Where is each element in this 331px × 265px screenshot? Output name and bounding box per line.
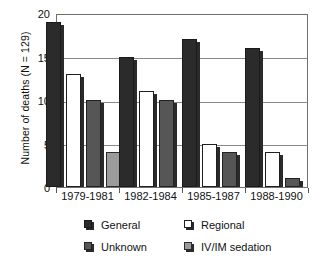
bar bbox=[222, 152, 240, 187]
bar-body bbox=[66, 74, 81, 187]
bar-shadow bbox=[154, 94, 157, 187]
legend-swatch-body bbox=[84, 242, 92, 250]
legend-swatch-icon bbox=[84, 220, 94, 230]
legend-label: Unknown bbox=[101, 241, 147, 253]
y-axis-title: Number of deaths (N = 129) bbox=[19, 13, 31, 183]
x-axis-tick-label: 1982-1984 bbox=[124, 190, 177, 202]
legend-item: Unknown bbox=[84, 241, 184, 253]
legend-item: Regional bbox=[184, 219, 314, 231]
bar-body bbox=[119, 57, 134, 188]
legend-label: IV/IM sedation bbox=[201, 241, 271, 253]
bar bbox=[139, 91, 157, 187]
bar bbox=[159, 100, 177, 187]
legend-swatch-icon bbox=[184, 220, 194, 230]
bar-shadow bbox=[237, 155, 240, 187]
bar-shadow bbox=[101, 103, 104, 187]
legend-swatch-icon bbox=[84, 242, 94, 252]
legend-item: General bbox=[84, 219, 184, 231]
bar-body bbox=[46, 22, 61, 187]
legend-swatch-icon bbox=[184, 242, 194, 252]
bar bbox=[86, 100, 104, 187]
legend-swatch-body bbox=[84, 220, 92, 228]
bar-body bbox=[285, 178, 300, 187]
bar-shadow bbox=[134, 60, 137, 188]
chart-legend: GeneralRegionalUnknownIV/IM sedation bbox=[84, 214, 314, 258]
bar-shadow bbox=[81, 77, 84, 187]
bar-body bbox=[222, 152, 237, 187]
bar-chart-figure: Number of deaths (N = 129) 05101520 1979… bbox=[0, 0, 331, 265]
bar bbox=[285, 178, 303, 187]
bar-body bbox=[86, 100, 101, 187]
bar bbox=[245, 48, 263, 187]
bar-shadow bbox=[61, 25, 64, 187]
x-axis-tick-mark bbox=[119, 188, 120, 193]
bar bbox=[46, 22, 64, 187]
bar-shadow bbox=[300, 181, 303, 187]
bar-shadow bbox=[217, 147, 220, 188]
legend-swatch-shadow bbox=[86, 250, 94, 252]
legend-swatch-shadow bbox=[186, 228, 194, 230]
legend-swatch-shadow bbox=[186, 250, 194, 252]
bar-shadow bbox=[174, 103, 177, 187]
bar bbox=[66, 74, 84, 187]
bar bbox=[182, 39, 200, 187]
x-axis-tick-mark bbox=[182, 188, 183, 193]
bar-series-layer bbox=[57, 15, 307, 187]
x-axis-tick-labels: 1979-19811982-19841985-19871988-1990 bbox=[56, 190, 308, 206]
bar-body bbox=[245, 48, 260, 187]
bar-body bbox=[159, 100, 174, 187]
bar-shadow bbox=[260, 51, 263, 187]
x-axis-tick-mark bbox=[308, 188, 309, 193]
legend-label: General bbox=[101, 219, 140, 231]
legend-swatch-body bbox=[184, 242, 192, 250]
bar-body bbox=[182, 39, 197, 187]
bar-shadow bbox=[280, 155, 283, 187]
x-axis-tick-label: 1985-1987 bbox=[187, 190, 240, 202]
bar bbox=[119, 57, 137, 188]
bar-body bbox=[139, 91, 154, 187]
x-axis-tick-mark bbox=[56, 188, 57, 193]
bar-shadow bbox=[197, 42, 200, 187]
x-axis-tick-label: 1988-1990 bbox=[250, 190, 303, 202]
plot-area bbox=[56, 14, 308, 188]
legend-label: Regional bbox=[201, 219, 244, 231]
x-axis-tick-label: 1979-1981 bbox=[61, 190, 114, 202]
bar-body bbox=[265, 152, 280, 187]
bar-body bbox=[202, 144, 217, 188]
legend-swatch-body bbox=[184, 220, 192, 228]
legend-item: IV/IM sedation bbox=[184, 241, 314, 253]
x-axis-tick-mark bbox=[245, 188, 246, 193]
bar bbox=[265, 152, 283, 187]
legend-swatch-shadow bbox=[86, 228, 94, 230]
bar bbox=[202, 144, 220, 188]
